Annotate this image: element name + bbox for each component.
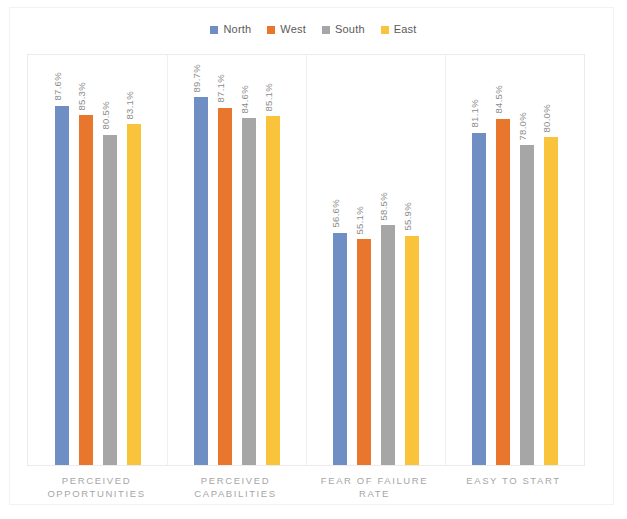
bar-value-label: 87.6% [52,72,62,100]
bar-east[interactable]: 80.0% [544,55,558,465]
bar-rect[interactable] [496,119,510,465]
bar-rect[interactable] [357,239,371,465]
bar-rect[interactable] [218,108,232,465]
bar-rect[interactable] [79,115,93,465]
bar-rect[interactable] [194,97,208,465]
legend-item-west[interactable]: West [267,24,306,35]
bar-value-label: 84.5% [493,85,503,113]
chart-legend: NorthWestSouthEast [0,24,627,35]
bar-rect[interactable] [520,145,534,465]
bar-value-label: 83.1% [124,91,134,119]
bar-south[interactable]: 80.5% [103,55,117,465]
bar-value-label: 81.1% [469,99,479,127]
bar-value-label: 55.9% [402,202,412,230]
bar-west[interactable]: 84.5% [496,55,510,465]
bar-group: 81.1%84.5%78.0%80.0% [445,55,584,465]
chart-page: NorthWestSouthEast 87.6%85.3%80.5%83.1%8… [0,0,627,519]
legend-swatch-icon [381,26,389,34]
bar-north[interactable]: 89.7% [194,55,208,465]
bar-rect[interactable] [242,118,256,465]
bar-west[interactable]: 87.1% [218,55,232,465]
bar-value-label: 58.5% [378,192,388,220]
legend-item-north[interactable]: North [210,24,251,35]
bar-value-label: 85.1% [263,83,273,111]
plot-inner: 87.6%85.3%80.5%83.1%89.7%87.1%84.6%85.1%… [28,55,584,465]
bar-north[interactable]: 87.6% [55,55,69,465]
category-label: PERCEIVED OPPORTUNITIES [27,474,166,500]
bar-value-label: 78.0% [517,112,527,140]
bar-group: 56.6%55.1%58.5%55.9% [306,55,445,465]
bar-rect[interactable] [333,233,347,465]
bar-value-label: 80.5% [100,102,110,130]
bar-rect[interactable] [127,124,141,465]
bar-north[interactable]: 81.1% [472,55,486,465]
legend-item-label: West [280,24,306,35]
bar-rect[interactable] [55,106,69,465]
bar-value-label: 89.7% [191,64,201,92]
legend-item-label: North [223,24,251,35]
legend-swatch-icon [322,26,330,34]
bar-rect[interactable] [472,133,486,466]
bar-north[interactable]: 56.6% [333,55,347,465]
bar-rect[interactable] [405,236,419,465]
bar-value-label: 80.0% [541,104,551,132]
legend-swatch-icon [267,26,275,34]
bar-group: 87.6%85.3%80.5%83.1% [28,55,167,465]
bar-rect[interactable] [544,137,558,465]
legend-item-label: South [335,24,365,35]
bar-group-bars: 56.6%55.1%58.5%55.9% [306,55,445,465]
bar-value-label: 55.1% [354,206,364,234]
legend-item-south[interactable]: South [322,24,365,35]
bar-south[interactable]: 78.0% [520,55,534,465]
bar-east[interactable]: 85.1% [266,55,280,465]
bar-value-label: 84.6% [239,85,249,113]
bar-rect[interactable] [266,116,280,465]
category-label: EASY TO START [444,474,583,487]
bar-group-bars: 89.7%87.1%84.6%85.1% [167,55,306,465]
bar-value-label: 85.3% [76,82,86,110]
bar-value-label: 87.1% [215,74,225,102]
bar-east[interactable]: 55.9% [405,55,419,465]
bar-west[interactable]: 55.1% [357,55,371,465]
bar-group-bars: 81.1%84.5%78.0%80.0% [445,55,584,465]
bar-rect[interactable] [103,135,117,465]
legend-item-east[interactable]: East [381,24,417,35]
bar-south[interactable]: 84.6% [242,55,256,465]
bar-value-label: 56.6% [330,200,340,228]
legend-swatch-icon [210,26,218,34]
category-axis-labels: PERCEIVED OPPORTUNITIESPERCEIVED CAPABIL… [27,474,585,514]
legend-item-label: East [394,24,417,35]
bar-rect[interactable] [381,225,395,465]
bar-west[interactable]: 85.3% [79,55,93,465]
bar-east[interactable]: 83.1% [127,55,141,465]
category-label: FEAR OF FAILURE RATE [305,474,444,500]
category-label: PERCEIVED CAPABILITIES [166,474,305,500]
bar-group: 89.7%87.1%84.6%85.1% [167,55,306,465]
bar-group-bars: 87.6%85.3%80.5%83.1% [28,55,167,465]
bar-south[interactable]: 58.5% [381,55,395,465]
plot-area: 87.6%85.3%80.5%83.1%89.7%87.1%84.6%85.1%… [27,54,585,466]
